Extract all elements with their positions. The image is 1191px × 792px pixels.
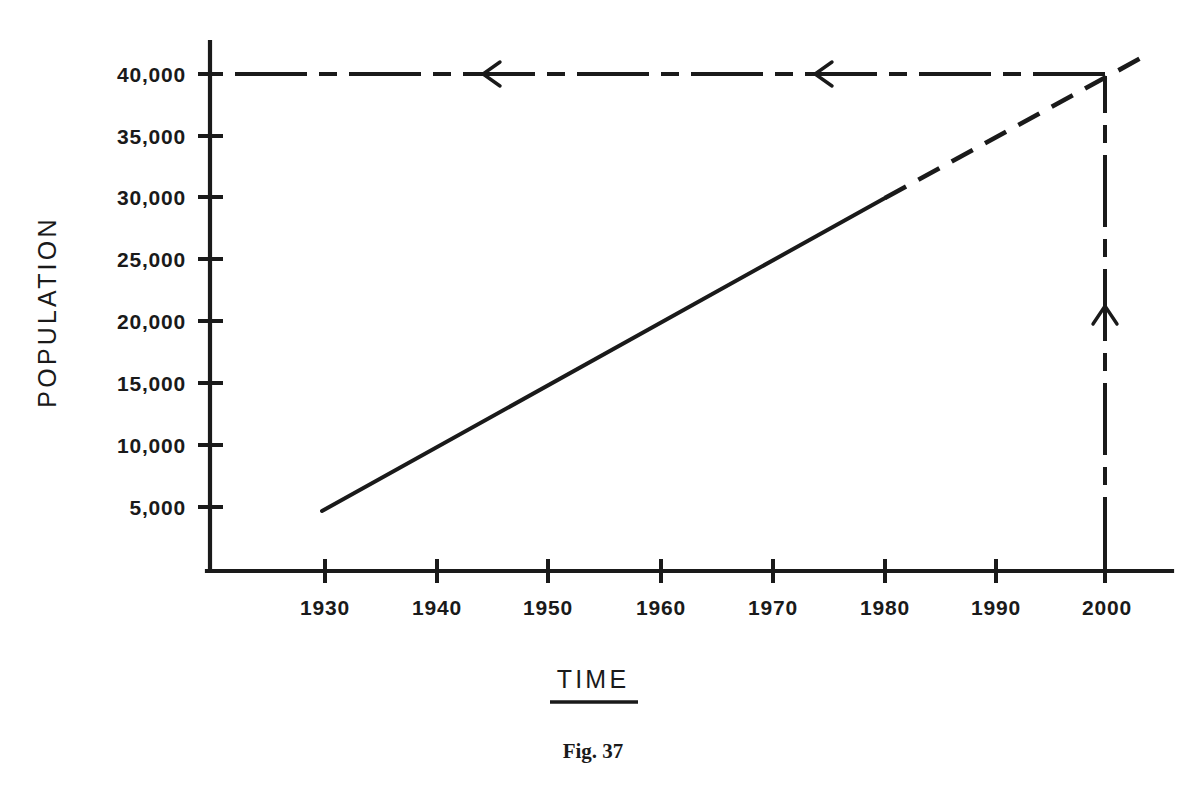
x-tick-label-1950: 1950 — [523, 596, 573, 619]
y-tick-label-5000: 5,000 — [129, 496, 186, 519]
annotation-vertical-readout — [1093, 76, 1117, 569]
x-axis-tick-labels: 1930 1940 1950 1960 1970 1980 1990 2000 — [300, 596, 1132, 619]
y-tick-label-15000: 15,000 — [117, 372, 186, 395]
x-tick-label-1990: 1990 — [971, 596, 1021, 619]
x-tick-label-1970: 1970 — [748, 596, 798, 619]
figure-caption: Fig. 37 — [563, 739, 624, 763]
series-extrapolated-projection-line — [885, 58, 1141, 198]
y-axis-tick-labels: 40,000 35,000 30,000 25,000 20,000 15,00… — [117, 63, 186, 519]
y-axis-title: POPULATION — [33, 216, 61, 407]
x-tick-label-1960: 1960 — [636, 596, 686, 619]
x-tick-label-2000: 2000 — [1082, 596, 1132, 619]
annotation-horizontal-readout — [215, 62, 1105, 86]
x-tick-label-1940: 1940 — [412, 596, 462, 619]
y-tick-label-25000: 25,000 — [117, 248, 186, 271]
x-axis-title: TIME — [557, 665, 630, 693]
y-tick-label-40000: 40,000 — [117, 63, 186, 86]
series-observed-trend-line — [322, 198, 885, 511]
x-axis-title-group: TIME — [550, 665, 638, 702]
y-tick-label-10000: 10,000 — [117, 434, 186, 457]
x-tick-label-1930: 1930 — [300, 596, 350, 619]
x-tick-label-1980: 1980 — [860, 596, 910, 619]
y-tick-label-20000: 20,000 — [117, 310, 186, 333]
figure-container: 40,000 35,000 30,000 25,000 20,000 15,00… — [0, 0, 1191, 792]
y-tick-label-30000: 30,000 — [117, 186, 186, 209]
population-time-line-chart: 40,000 35,000 30,000 25,000 20,000 15,00… — [0, 0, 1191, 792]
y-tick-label-35000: 35,000 — [117, 125, 186, 148]
